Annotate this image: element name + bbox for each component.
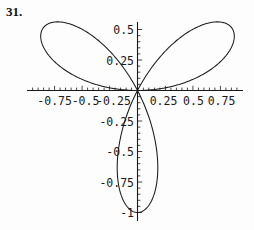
x-tick-label-0-75: 0.75 [208,94,236,108]
y-tick-label--0-5: -0.5 [106,145,134,159]
x-tick-label-0-25: 0.25 [150,94,178,108]
figure-container: 31. [0,0,254,230]
axis-lines [27,22,243,221]
y-tick-label--0-25: -0.25 [99,115,134,129]
y-axis-tick-labels: 0.5 0.25 -0.25 -0.5 -0.75 -1 [99,23,134,220]
y-tick-label--1: -1 [120,206,134,220]
y-tick-label-0-5: 0.5 [113,23,134,37]
y-tick-label--0-75: -0.75 [99,176,134,190]
y-axis-minor-ticks [138,30,143,213]
x-tick-label-0-5: 0.5 [183,94,204,108]
x-axis-tick-labels: -0.75 -0.5 -0.25 0.25 0.5 0.75 [37,94,235,108]
y-tick-label-0-25: 0.25 [106,54,134,68]
x-tick-label--0-5: -0.5 [72,94,100,108]
polar-rose-plot: -0.75 -0.5 -0.25 0.25 0.5 0.75 0.5 0.25 … [0,0,254,230]
x-axis-minor-ticks [33,86,237,91]
x-tick-label--0-25: -0.25 [96,94,131,108]
x-tick-label--0-75: -0.75 [37,94,72,108]
